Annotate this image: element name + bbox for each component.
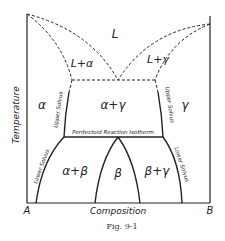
solidus-right xyxy=(155,24,210,80)
upper-solvus-right xyxy=(158,92,163,137)
figure-caption: Fig. 9-1 xyxy=(106,222,137,231)
phase-diagram: L L+α L+γ α α+γ γ α+β β β+γ Upper Solvus… xyxy=(0,0,225,241)
solidus-left xyxy=(27,14,72,80)
region-beta: β xyxy=(113,166,122,180)
region-gamma: γ xyxy=(181,98,189,112)
region-liquid-alpha: L+α xyxy=(71,57,94,70)
liquidus-right xyxy=(118,24,210,80)
upper-solvus-left-dashed xyxy=(69,80,72,92)
region-liquid-gamma: L+γ xyxy=(147,53,169,66)
region-liquid: L xyxy=(112,27,119,41)
region-alpha: α xyxy=(38,98,46,112)
x-axis-right-label: B xyxy=(207,205,214,216)
y-axis-label: Temperature xyxy=(11,86,21,144)
region-beta-gamma: β+γ xyxy=(144,164,171,178)
region-alpha-gamma: α+γ xyxy=(100,98,126,112)
x-axis-left-label: A xyxy=(23,205,31,216)
upper-solvus-right-dashed xyxy=(155,80,158,92)
upper-solvus-left xyxy=(64,92,69,137)
region-alpha-beta: α+β xyxy=(62,164,88,178)
label-upper-solvus-right: Upper Solvus xyxy=(163,86,175,123)
label-peritectoid-isotherm: Peritectoid Reaction Isotherm xyxy=(72,129,154,135)
label-upper-solvus-left: Upper Solvus xyxy=(53,91,65,128)
x-axis-label: Composition xyxy=(90,206,147,216)
liquidus-left xyxy=(27,14,118,80)
